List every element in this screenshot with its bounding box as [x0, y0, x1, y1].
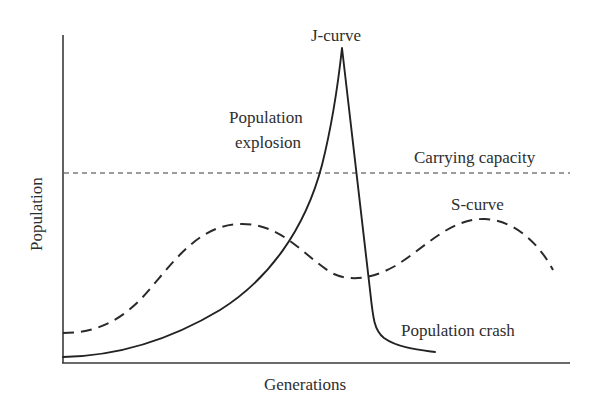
explosion-label-line2: explosion [235, 133, 302, 152]
j-curve-line [63, 48, 435, 357]
j-curve-label: J-curve [311, 26, 361, 45]
s-curve-label: S-curve [451, 195, 504, 214]
x-axis-label: Generations [264, 375, 346, 394]
carrying-capacity-label: Carrying capacity [414, 148, 536, 167]
population-growth-diagram: J-curve Population explosion Carrying ca… [0, 0, 596, 420]
s-curve-line [63, 219, 553, 333]
y-axis-label: Population [27, 177, 46, 251]
population-crash-label: Population crash [401, 321, 515, 340]
explosion-label-line1: Population [229, 108, 303, 127]
